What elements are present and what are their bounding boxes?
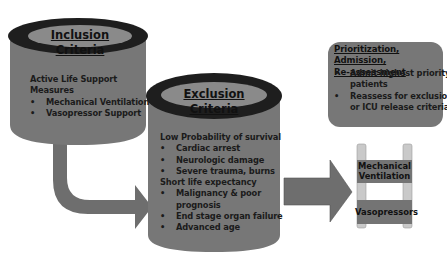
right-arrow xyxy=(284,160,352,222)
inclusion-title: Inclusion Criteria xyxy=(30,28,130,58)
prioritization-item: Admit highest priority xyxy=(334,68,444,79)
exclusion-content: Low Probability of survival Cardiac arre… xyxy=(160,132,280,234)
inclusion-item: Vasopressor Support xyxy=(30,108,142,119)
exclusion-item: Neurologic damage xyxy=(160,155,280,166)
prioritization-item-continuation: or ICU release criteria xyxy=(334,102,444,113)
prioritization-content: Admit highest priority patients Reassess… xyxy=(334,68,444,113)
prioritization-title-line1: Prioritization, Admission, xyxy=(334,44,447,67)
ladder-rung-mechanical-ventilation: Mechanical Ventilation xyxy=(357,161,412,181)
exclusion-group2-heading: Short life expectancy xyxy=(160,177,280,188)
exclusion-item-continuation: prognosis xyxy=(160,200,280,211)
exclusion-item: Advanced age xyxy=(160,222,280,233)
exclusion-item: End stage organ failure xyxy=(160,211,280,222)
inclusion-heading-line1: Active Life Support xyxy=(30,74,142,85)
bent-arrow xyxy=(53,140,152,229)
exclusion-group1-heading: Low Probability of survival xyxy=(160,132,280,143)
inclusion-item: Mechanical Ventilation xyxy=(30,97,142,108)
prioritization-item: Reassess for exclusion xyxy=(334,91,444,102)
prioritization-item-continuation: patients xyxy=(334,79,444,90)
inclusion-heading-line2: Measures xyxy=(30,85,142,96)
exclusion-title: Exclusion Criteria xyxy=(164,87,264,117)
exclusion-item: Malignancy & poor xyxy=(160,188,280,199)
exclusion-item: Severe trauma, burns xyxy=(160,166,280,177)
inclusion-content: Active Life Support Measures Mechanical … xyxy=(30,74,142,119)
exclusion-item: Cardiac arrest xyxy=(160,143,280,154)
ladder-rung-vasopressors: Vasopressors xyxy=(355,207,414,217)
